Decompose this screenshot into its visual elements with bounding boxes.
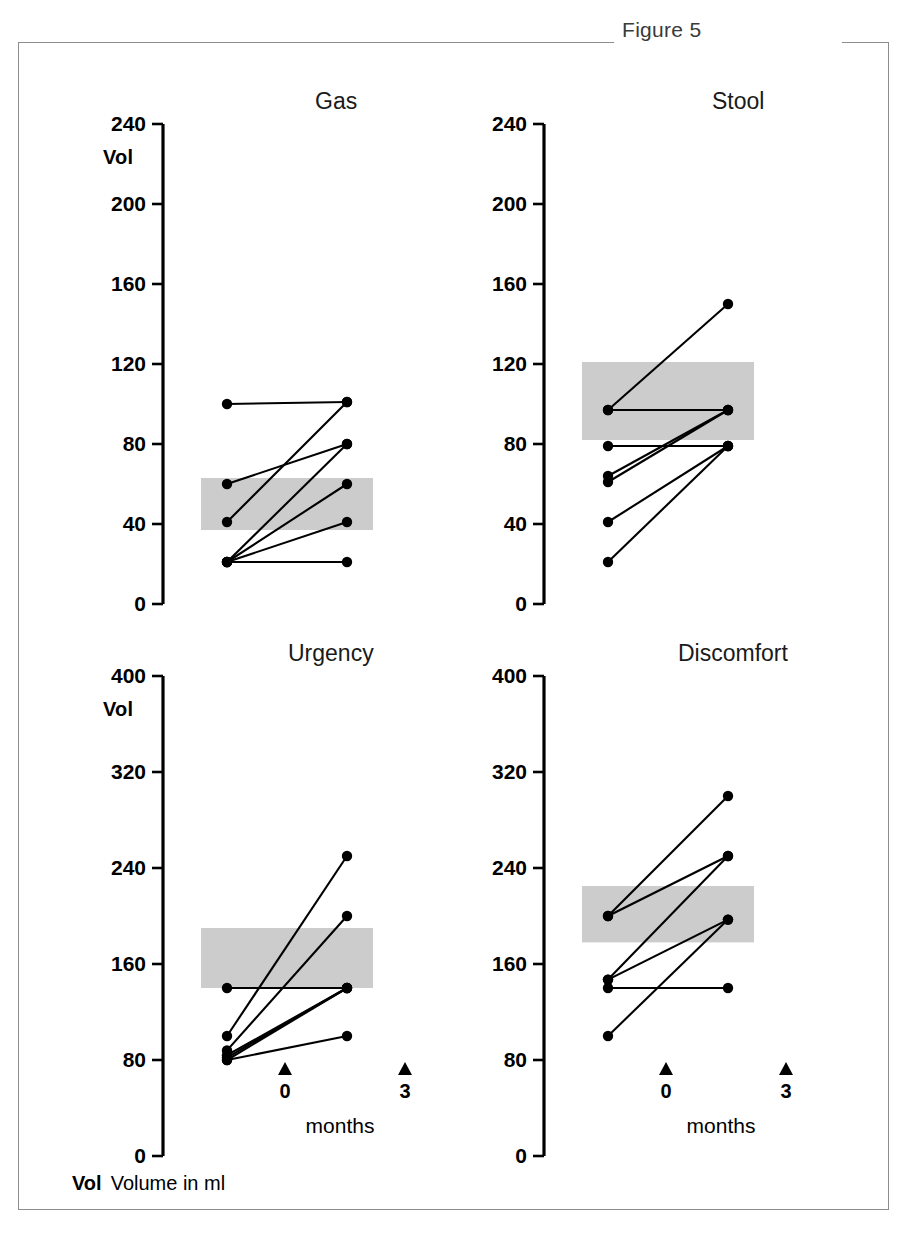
x-axis-title-urgency: months xyxy=(275,1114,405,1138)
x-marker-3-urgency xyxy=(398,1062,412,1075)
figure-number-label: Figure 5 xyxy=(622,18,701,42)
data-point xyxy=(342,983,352,993)
data-point xyxy=(222,399,232,409)
plot-area-stool: 04080120160200240 xyxy=(450,80,850,640)
data-point xyxy=(603,517,613,527)
y-axis-tick-label: 240 xyxy=(492,112,527,135)
y-axis-tick-label: 0 xyxy=(134,592,146,615)
data-point xyxy=(723,405,733,415)
y-axis-tick-label: 240 xyxy=(492,856,527,879)
data-point xyxy=(603,911,613,921)
panel-urgency: Urgency Vol 080160240320400 0 3 months xyxy=(95,632,450,1192)
y-axis-tick-label: 200 xyxy=(492,192,527,215)
y-axis-tick-label: 320 xyxy=(492,760,527,783)
data-point xyxy=(723,851,733,861)
y-axis-tick-label: 80 xyxy=(504,432,527,455)
footnote-text: Volume in ml xyxy=(111,1172,226,1194)
y-axis-tick-label: 160 xyxy=(492,952,527,975)
y-axis-tick-label: 160 xyxy=(111,952,146,975)
y-axis-tick-label: 240 xyxy=(111,856,146,879)
data-point xyxy=(342,1031,352,1041)
y-axis-tick-label: 160 xyxy=(111,272,146,295)
footnote-key: Vol xyxy=(72,1172,102,1194)
data-point xyxy=(222,983,232,993)
figure-footnote: VolVolume in ml xyxy=(72,1172,225,1195)
data-point xyxy=(342,397,352,407)
y-axis-tick-label: 80 xyxy=(123,432,146,455)
frame-border-right xyxy=(888,42,889,1210)
series-line xyxy=(227,402,347,404)
y-axis-tick-label: 0 xyxy=(515,1144,527,1167)
data-point xyxy=(603,1031,613,1041)
panel-stool: Stool 04080120160200240 xyxy=(450,80,850,640)
y-axis-tick-label: 320 xyxy=(111,760,146,783)
data-point xyxy=(603,983,613,993)
y-axis-tick-label: 240 xyxy=(111,112,146,135)
plot-area-discomfort: 080160240320400 xyxy=(450,632,850,1192)
data-point xyxy=(723,983,733,993)
data-point xyxy=(723,791,733,801)
data-point xyxy=(603,441,613,451)
data-point xyxy=(723,299,733,309)
frame-border-top-left xyxy=(18,42,614,43)
panel-gas: Gas Vol 04080120160200240 xyxy=(95,80,450,640)
y-axis-tick-label: 400 xyxy=(111,664,146,687)
reference-band xyxy=(582,362,754,440)
y-axis-tick-label: 400 xyxy=(492,664,527,687)
x-marker-0-discomfort xyxy=(659,1062,673,1075)
y-axis-tick-label: 160 xyxy=(492,272,527,295)
frame-border-top-right xyxy=(842,42,889,43)
y-axis-tick-label: 0 xyxy=(134,1144,146,1167)
data-point xyxy=(222,479,232,489)
plot-area-gas: 04080120160200240 xyxy=(95,80,450,640)
y-axis-tick-label: 80 xyxy=(123,1048,146,1071)
data-point xyxy=(222,1031,232,1041)
y-axis-tick-label: 40 xyxy=(123,512,146,535)
data-point xyxy=(222,517,232,527)
x-tick-label-0-urgency: 0 xyxy=(272,1080,298,1103)
x-tick-label-0-discomfort: 0 xyxy=(653,1080,679,1103)
y-axis-tick-label: 0 xyxy=(515,592,527,615)
data-point xyxy=(222,557,232,567)
plot-area-urgency: 080160240320400 xyxy=(95,632,450,1192)
data-point xyxy=(342,479,352,489)
reference-band xyxy=(201,928,373,988)
x-marker-0-urgency xyxy=(278,1062,292,1075)
x-marker-3-discomfort xyxy=(779,1062,793,1075)
data-point xyxy=(603,557,613,567)
data-point xyxy=(603,405,613,415)
y-axis-tick-label: 80 xyxy=(504,1048,527,1071)
x-axis-title-discomfort: months xyxy=(656,1114,786,1138)
x-tick-label-3-urgency: 3 xyxy=(392,1080,418,1103)
x-tick-label-3-discomfort: 3 xyxy=(773,1080,799,1103)
panel-discomfort: Discomfort 080160240320400 0 3 months xyxy=(450,632,850,1192)
frame-border-bottom xyxy=(18,1209,889,1210)
data-point xyxy=(342,439,352,449)
data-point xyxy=(603,477,613,487)
frame-border-left xyxy=(18,42,19,1210)
y-axis-tick-label: 40 xyxy=(504,512,527,535)
series-line xyxy=(608,446,728,522)
data-point xyxy=(342,557,352,567)
data-point xyxy=(723,914,733,924)
data-point xyxy=(342,911,352,921)
data-point xyxy=(342,851,352,861)
data-point xyxy=(342,517,352,527)
y-axis-tick-label: 200 xyxy=(111,192,146,215)
data-point xyxy=(222,1055,232,1065)
data-point xyxy=(723,441,733,451)
y-axis-tick-label: 120 xyxy=(492,352,527,375)
figure-root: Figure 5 Gas Vol 04080120160200240 Stool… xyxy=(0,0,907,1257)
series-line xyxy=(608,446,728,562)
y-axis-tick-label: 120 xyxy=(111,352,146,375)
series-line xyxy=(227,988,347,1060)
